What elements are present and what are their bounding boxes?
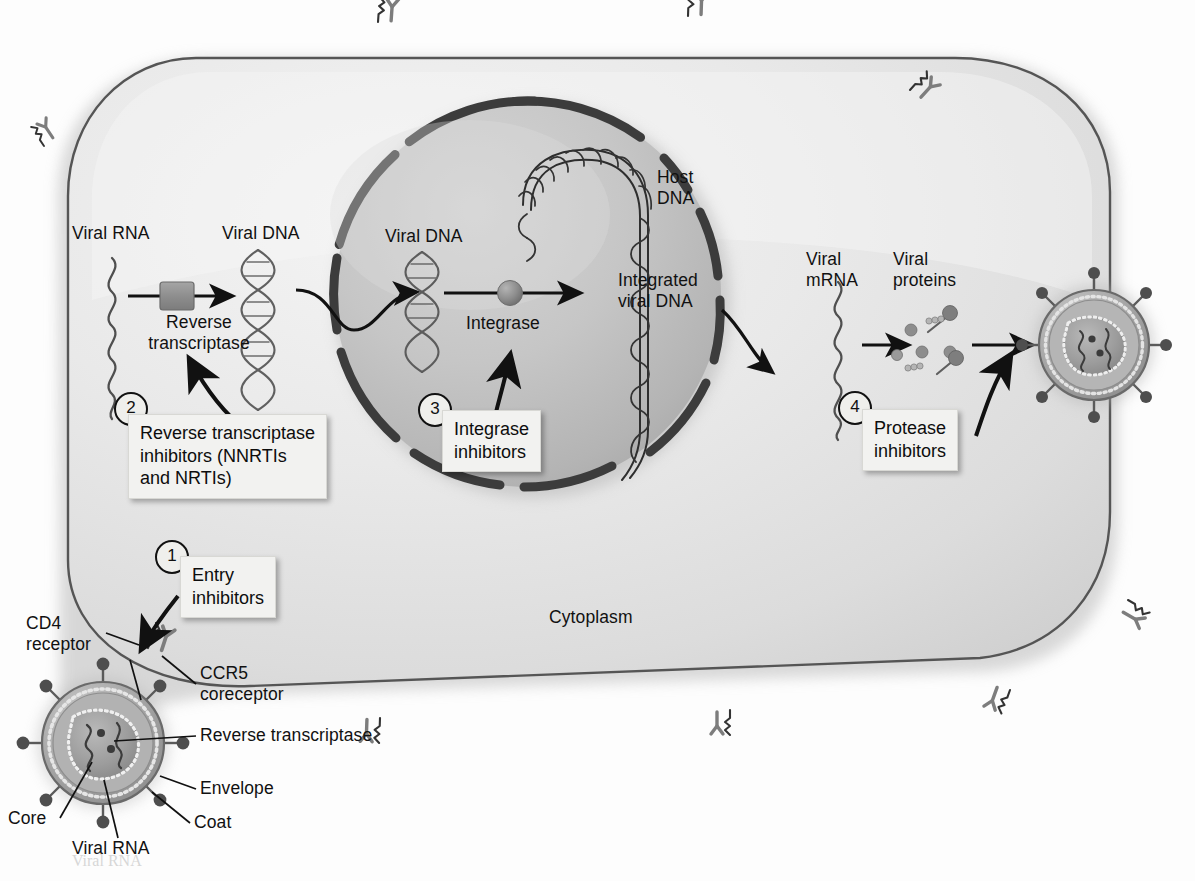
label-viral-rna-cytoplasm: Viral RNA: [72, 223, 149, 244]
label-ccr5-coreceptor: CCR5 coreceptor: [200, 663, 284, 705]
label-virion-reverse-transcriptase: Reverse transcriptase: [200, 725, 372, 746]
receptor-icon: [1119, 600, 1150, 629]
nucleus-highlight: [330, 120, 610, 310]
label-viral-dna-cytoplasm: Viral DNA: [222, 223, 299, 244]
callout-protease-inhibitors[interactable]: Protease inhibitors: [862, 409, 958, 471]
label-viral-dna-nucleus: Viral DNA: [385, 226, 462, 247]
label-virion-envelope: Envelope: [200, 778, 274, 799]
label-virion-coat: Coat: [194, 812, 231, 833]
budding-virion: [1016, 267, 1172, 423]
receptor-icon: [31, 117, 58, 146]
label-integrase-enzyme: Integrase: [466, 313, 540, 334]
receptor-icon: [378, 0, 399, 23]
label-integrated-viral-dna: Integrated viral DNA: [618, 270, 698, 312]
label-viral-mrna: Viral mRNA: [806, 249, 858, 291]
reverse-transcriptase-enzyme-icon: [160, 282, 194, 310]
label-host-dna: Host DNA: [657, 167, 694, 209]
page-bleed-through-text: Viral RNA: [72, 852, 142, 870]
label-virion-core: Core: [8, 808, 46, 829]
receptor-icon: [711, 710, 730, 735]
label-viral-proteins: Viral proteins: [893, 249, 956, 291]
callout-rt-inhibitors[interactable]: Reverse transcriptase inhibitors (NNRTIs…: [128, 414, 327, 499]
callout-integrase-inhibitors[interactable]: Integrase inhibitors: [442, 410, 541, 472]
figure-canvas: Viral RNA Viral DNA Viral DNA Host DNA I…: [0, 0, 1195, 881]
label-cytoplasm: Cytoplasm: [549, 607, 633, 628]
receptor-icon: [688, 0, 708, 17]
integrase-enzyme-icon: [498, 281, 523, 306]
receptor-icon: [984, 684, 1010, 714]
free-virion: [17, 658, 190, 829]
label-cd4-receptor: CD4 receptor: [26, 613, 91, 655]
virion-rt-dot: [97, 729, 105, 737]
label-reverse-transcriptase-enzyme: Reverse transcriptase: [134, 312, 264, 354]
callout-entry-inhibitors[interactable]: Entry inhibitors: [180, 556, 276, 618]
